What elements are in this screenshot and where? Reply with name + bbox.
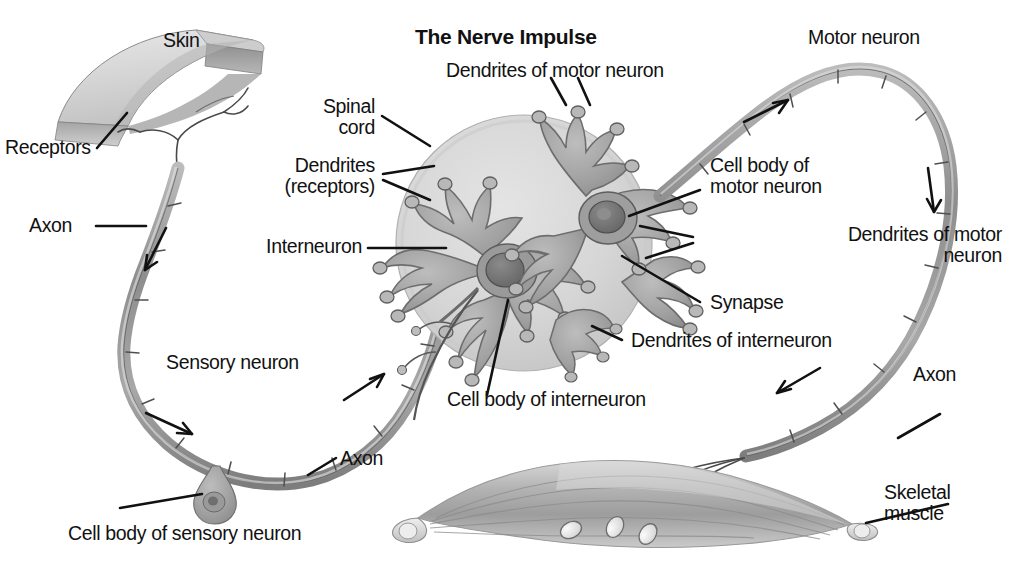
label-axon-sensory-upper: Axon — [29, 215, 72, 236]
sensory-neuron-fiber — [122, 167, 440, 524]
label-dendrites-motor-top: Dendrites of motor neuron — [446, 60, 664, 81]
leader-axon-motor — [898, 414, 940, 438]
label-cell-body-interneuron: Cell body of interneuron — [447, 389, 646, 410]
label-skin: Skin — [163, 30, 200, 51]
label-motor-neuron: Motor neuron — [808, 27, 920, 48]
figure-canvas: The Nerve Impulse Skin Receptors Axon Se… — [0, 0, 1012, 572]
label-sensory-neuron: Sensory neuron — [166, 352, 299, 373]
label-cell-body-sensory: Cell body of sensory neuron — [68, 523, 301, 544]
label-dendrites-receptors: Dendrites (receptors) — [200, 155, 375, 196]
leader-dendrites-motor-top-a — [551, 78, 566, 105]
label-axon-sensory-lower: Axon — [340, 448, 383, 469]
label-synapse: Synapse — [710, 292, 783, 313]
arrow-sensory-to-cord — [344, 374, 384, 400]
nerve-impulse-illustration — [0, 0, 1012, 572]
leader-spinal-cord — [382, 116, 430, 146]
arrow-motor-right — [927, 168, 941, 212]
label-dendrites-motor-right: Dendrites of motor neuron — [702, 224, 1002, 265]
arrow-motor-to-muscle — [777, 368, 820, 393]
leader-dendrites-motor-top-b — [578, 78, 590, 105]
label-dendrites-interneuron: Dendrites of interneuron — [631, 330, 832, 351]
label-receptors: Receptors — [5, 137, 91, 158]
label-spinal-cord: Spinal cord — [230, 96, 375, 137]
figure-title: The Nerve Impulse — [415, 26, 597, 48]
skeletal-muscle — [392, 461, 877, 548]
label-cell-body-motor: Cell body of motor neuron — [710, 155, 822, 196]
label-axon-motor: Axon — [913, 364, 956, 385]
label-skeletal-muscle: Skeletal muscle — [884, 482, 951, 523]
leader-cell-body-sensory — [120, 494, 202, 508]
label-interneuron: Interneuron — [200, 236, 362, 257]
